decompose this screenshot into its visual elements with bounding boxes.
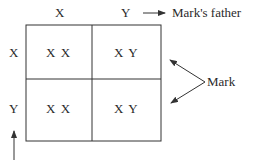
mark-label: Mark	[207, 75, 235, 88]
cell-r1-c1: X X	[46, 46, 71, 59]
column-header-y: Y	[121, 6, 130, 19]
grid-border	[26, 25, 161, 141]
column-header-x: X	[55, 6, 64, 19]
mark-arrow-down-icon	[171, 82, 205, 103]
row-header-y: Y	[9, 102, 18, 115]
cell-r1-c2: X Y	[114, 46, 139, 59]
father-label: Mark's father	[172, 6, 241, 19]
cell-r2-c1: X X	[46, 102, 71, 115]
mark-arrow-up-icon	[170, 60, 205, 82]
cell-r2-c2: X Y	[114, 102, 139, 115]
row-header-x: X	[9, 46, 18, 59]
